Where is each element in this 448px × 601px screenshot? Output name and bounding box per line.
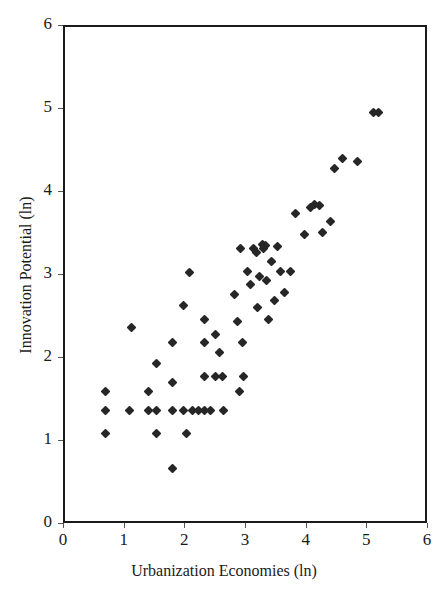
data-point xyxy=(178,301,188,311)
data-point xyxy=(260,240,270,250)
data-point xyxy=(211,371,221,381)
y-tick-mark xyxy=(58,108,63,109)
data-point xyxy=(206,406,216,416)
data-point xyxy=(100,429,110,439)
data-point xyxy=(338,153,348,163)
data-point xyxy=(178,406,188,416)
x-tick-label: 6 xyxy=(412,530,442,550)
data-point xyxy=(306,203,316,213)
plot-area xyxy=(63,25,427,523)
data-point xyxy=(168,377,178,387)
data-point xyxy=(373,108,383,118)
x-axis-title: Urbanization Economies (ln) xyxy=(0,562,448,580)
data-point xyxy=(368,108,378,118)
x-tick-mark xyxy=(306,523,307,528)
x-tick-label: 0 xyxy=(48,530,78,550)
x-tick-label: 3 xyxy=(230,530,260,550)
y-tick-mark xyxy=(58,25,63,26)
x-tick-mark xyxy=(366,523,367,528)
y-tick-label: 6 xyxy=(22,14,52,34)
data-point xyxy=(257,240,267,250)
data-point xyxy=(326,216,336,226)
y-tick-mark xyxy=(58,523,63,524)
data-point xyxy=(266,256,276,266)
x-tick-label: 2 xyxy=(169,530,199,550)
data-point xyxy=(280,288,290,298)
data-point xyxy=(254,271,264,281)
y-tick-label: 0 xyxy=(22,512,52,532)
x-tick-mark xyxy=(124,523,125,528)
data-point xyxy=(200,371,210,381)
data-point xyxy=(275,267,285,277)
data-point xyxy=(248,244,258,254)
data-point xyxy=(352,157,362,167)
data-point xyxy=(100,406,110,416)
x-tick-mark xyxy=(427,523,428,528)
data-point xyxy=(263,314,273,324)
x-tick-mark xyxy=(245,523,246,528)
data-point xyxy=(219,406,229,416)
data-point xyxy=(125,406,135,416)
y-tick-label: 5 xyxy=(22,97,52,117)
data-point xyxy=(200,337,210,347)
data-point xyxy=(272,242,282,252)
data-point xyxy=(245,279,255,289)
data-point xyxy=(151,358,161,368)
data-point xyxy=(261,275,271,285)
data-point xyxy=(242,267,252,277)
data-point xyxy=(235,386,245,396)
data-point xyxy=(253,303,263,313)
data-point xyxy=(143,386,153,396)
data-point xyxy=(330,163,340,173)
data-point xyxy=(168,464,178,474)
y-tick-label: 1 xyxy=(22,429,52,449)
data-points-layer xyxy=(65,27,425,521)
data-point xyxy=(310,200,320,210)
y-axis-title: Innovation Potential (ln) xyxy=(17,145,35,405)
data-point xyxy=(269,296,279,306)
data-point xyxy=(194,406,204,416)
x-tick-label: 5 xyxy=(351,530,381,550)
data-point xyxy=(291,209,301,219)
data-point xyxy=(259,244,269,254)
data-point xyxy=(315,200,325,210)
data-point xyxy=(151,406,161,416)
x-tick-mark xyxy=(63,523,64,528)
data-point xyxy=(215,347,225,357)
y-tick-mark xyxy=(58,440,63,441)
data-point xyxy=(127,323,137,333)
data-point xyxy=(151,429,161,439)
data-point xyxy=(200,406,210,416)
data-point xyxy=(239,371,249,381)
data-point xyxy=(168,406,178,416)
data-point xyxy=(211,329,221,339)
data-point xyxy=(218,371,228,381)
data-point xyxy=(230,289,240,299)
x-tick-label: 4 xyxy=(291,530,321,550)
data-point xyxy=(143,406,153,416)
data-point xyxy=(300,230,310,240)
data-point xyxy=(233,317,243,327)
data-point xyxy=(237,337,247,347)
data-point xyxy=(100,386,110,396)
data-point xyxy=(251,248,261,258)
data-point xyxy=(184,268,194,278)
scatter-plot-figure: 0123456 0123456 Urbanization Economies (… xyxy=(0,0,448,601)
data-point xyxy=(286,267,296,277)
data-point xyxy=(200,314,210,324)
y-tick-mark xyxy=(58,274,63,275)
data-point xyxy=(318,228,328,238)
data-point xyxy=(168,337,178,347)
data-point xyxy=(181,429,191,439)
x-tick-mark xyxy=(184,523,185,528)
data-point xyxy=(236,244,246,254)
data-point xyxy=(187,406,197,416)
y-tick-mark xyxy=(58,357,63,358)
x-tick-label: 1 xyxy=(109,530,139,550)
y-tick-mark xyxy=(58,191,63,192)
